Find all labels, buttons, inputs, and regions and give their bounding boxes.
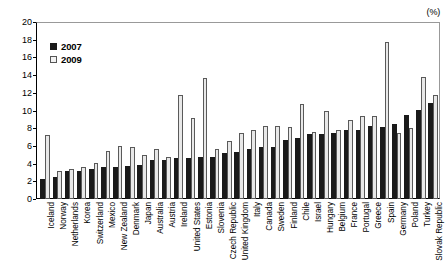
bar-2009 [324,111,329,199]
x-axis-label-cell: Slovenia [209,200,221,274]
bar-group [233,22,245,199]
bar-2009 [81,167,86,199]
bar-2009 [397,133,402,199]
y-axis: 02468101214161820 [0,22,36,200]
x-axis-category-labels: IcelandNorwayNetherlandsKoreaSwitzerland… [37,200,440,274]
x-axis-label-cell: Korea [75,200,87,274]
x-axis-label-cell: Japan [136,200,148,274]
bar-2009 [203,78,208,199]
x-axis-label-cell: Belgium [330,200,342,274]
legend-swatch-2007-icon [50,43,57,50]
bar-2009 [178,95,183,199]
bar-group [100,22,112,199]
x-axis-label-cell: Iceland [39,200,51,274]
bar-group [197,22,209,199]
bar-2009 [312,132,317,199]
x-axis-label-cell: Denmark [124,200,136,274]
bar-group [318,22,330,199]
y-axis-tick-mark [33,199,36,200]
bar-2009 [348,120,353,199]
y-axis-tick-label: 8 [27,124,32,133]
bar-2009 [166,157,171,199]
bar-group [112,22,124,199]
bar-group [136,22,148,199]
bar-2009 [336,130,341,199]
y-axis-tick-label: 6 [27,141,32,150]
bar-2009 [142,155,147,199]
bar-group [257,22,269,199]
y-axis-tick-label: 14 [22,71,32,80]
x-axis-label: Slovak Republic [436,202,444,261]
y-axis-tick-label: 0 [27,195,32,204]
bar-group [342,22,354,199]
bar-group [88,22,100,199]
bar-group [245,22,257,199]
y-axis-tick-label: 20 [22,18,32,27]
bar-group [282,22,294,199]
x-axis-label-cell: Germany [391,200,403,274]
bar-2009 [385,42,390,199]
x-axis-label-cell: France [342,200,354,274]
bar-2009 [239,133,244,199]
x-axis-label-cell: United States [185,200,197,274]
x-axis-label-cell: Mexico [100,200,112,274]
x-axis-label-cell: Canada [257,200,269,274]
x-axis-label-cell: Slovak Republic [427,200,439,274]
bar-2009 [118,146,123,199]
legend-label-2009: 2009 [61,54,82,65]
bar-group [160,22,172,199]
x-axis-label-cell: Poland [403,200,415,274]
y-axis-tick-label: 16 [22,53,32,62]
bar-group [379,22,391,199]
y-axis-tick-label: 18 [22,35,32,44]
bar-group [209,22,221,199]
y-axis-tick-label: 10 [22,106,32,115]
chart-legend: 2007 2009 [50,40,82,66]
bar-2009 [45,135,50,199]
x-axis-label-cell: Switzerland [88,200,100,274]
x-axis-label-cell: United Kingdom [233,200,245,274]
bar-2009 [275,126,280,199]
x-axis-label-cell: Austria [160,200,172,274]
legend-label-2007: 2007 [61,41,82,52]
x-axis-label-cell: New Zealand [112,200,124,274]
bar-group [427,22,439,199]
x-axis-label-cell: Spain [379,200,391,274]
bar-2009 [94,163,99,199]
x-axis-label-cell: Turkey [415,200,427,274]
x-axis-label-cell: Portugal [354,200,366,274]
bar-group [306,22,318,199]
bar-group [415,22,427,199]
x-axis-label-cell: Israel [306,200,318,274]
bar-group [269,22,281,199]
x-axis-label-cell: Sweden [269,200,281,274]
bar-2009 [372,116,377,199]
bar-group [391,22,403,199]
bar-2009 [227,141,232,199]
y-axis-tick-label: 2 [27,177,32,186]
bar-2009 [263,126,268,199]
x-axis-label-cell: Czech Republic [221,200,233,274]
x-axis-label-cell: Netherlands [63,200,75,274]
bar-2009 [288,127,293,199]
bar-2009 [215,149,220,199]
bar-group [221,22,233,199]
x-axis-label-cell: Norway [51,200,63,274]
bar-group [148,22,160,199]
bar-2009 [130,147,135,199]
legend-item-2009: 2009 [50,53,82,66]
bar-2009 [409,128,414,199]
x-axis-label-cell: Ireland [172,200,184,274]
bar-group [403,22,415,199]
y-axis-tick-label: 4 [27,159,32,168]
y-axis-tick-label: 12 [22,88,32,97]
legend-swatch-2009-icon [50,56,57,63]
bar-group [366,22,378,199]
x-axis-label-cell: Greece [366,200,378,274]
bar-2009 [106,151,111,199]
bar-group [294,22,306,199]
unemployment-rate-bar-chart: (%) 02468101214161820 IcelandNorwayNethe… [0,0,446,276]
x-axis-label-cell: Australia [148,200,160,274]
bar-series-container [37,22,440,199]
bar-2009 [421,77,426,199]
